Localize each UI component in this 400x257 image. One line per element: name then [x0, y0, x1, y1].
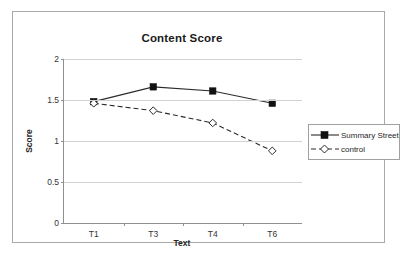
y-tick-label: 2 — [54, 54, 59, 64]
series-line-1 — [94, 103, 273, 151]
data-point-1-t3 — [149, 107, 157, 115]
y-tick-label: 1.5 — [47, 95, 59, 105]
data-point-1-t6 — [268, 147, 276, 155]
chart-title: Content Score — [63, 32, 301, 44]
gridline-y — [64, 59, 302, 60]
data-point-0-t4 — [210, 88, 216, 94]
gridline-y — [64, 141, 302, 142]
legend-swatch-control — [311, 143, 339, 155]
scan-artifact-text: · · ·· · ·· · — [0, 0, 398, 3]
x-tick-label-t6: T6 — [267, 229, 277, 239]
data-point-1-t4 — [209, 119, 217, 127]
y-tick-mark — [61, 182, 64, 183]
y-tick-mark — [61, 59, 64, 60]
x-tick-mark — [124, 223, 125, 226]
legend-label-series-1: control — [341, 145, 365, 154]
y-axis-title: Score — [24, 129, 34, 153]
plot-area: 00.511.52T1T3T4T6 — [63, 59, 302, 224]
y-tick-mark — [61, 223, 64, 224]
x-tick-label-t1: T1 — [89, 229, 99, 239]
y-tick-mark — [61, 141, 64, 142]
x-tick-label-t4: T4 — [208, 229, 218, 239]
x-tick-mark — [243, 223, 244, 226]
data-point-0-t3 — [150, 84, 156, 90]
y-tick-label: 0 — [54, 218, 59, 228]
legend-label-series-0: Summary Street — [341, 131, 399, 140]
legend-item-series-1: control — [311, 142, 399, 156]
gridline-y — [64, 182, 302, 183]
legend-item-series-0: Summary Street — [311, 128, 399, 142]
x-axis-title: Text — [63, 238, 301, 248]
x-tick-label-t3: T3 — [148, 229, 158, 239]
y-tick-mark — [61, 100, 64, 101]
data-point-0-t6 — [269, 100, 275, 106]
gridline-y — [64, 100, 302, 101]
y-tick-label: 1 — [54, 136, 59, 146]
chart-figure-frame: Content Score Score Text 00.511.52T1T3T4… — [12, 11, 385, 243]
legend-swatch-summary-street — [311, 129, 339, 141]
chart-legend: Summary Street control — [308, 124, 400, 160]
y-tick-label: 0.5 — [47, 177, 59, 187]
x-tick-mark — [183, 223, 184, 226]
